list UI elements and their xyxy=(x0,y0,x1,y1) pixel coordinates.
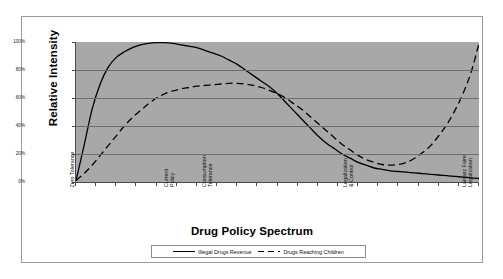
x-tick-mark xyxy=(478,183,479,186)
plot-inner xyxy=(76,42,479,182)
y-axis-title: Relative Intensity xyxy=(47,18,65,138)
x-tick-mark xyxy=(418,183,419,186)
y-tick-label: 80% xyxy=(0,68,25,73)
x-tick-mark xyxy=(95,183,96,186)
y-tick-label: 0% xyxy=(0,180,25,185)
x-tick-mark xyxy=(277,183,278,186)
chart-container: Relative Intensity 0%20%40%60%80%100% Ze… xyxy=(21,16,483,263)
y-tick-label: 100% xyxy=(0,40,25,45)
x-tick-mark xyxy=(317,183,318,186)
x-tick-mark xyxy=(256,183,257,186)
x-category-label-line: Zero Tolerance xyxy=(69,151,75,187)
x-axis-title: Drug Policy Spectrum xyxy=(22,225,482,237)
gridline xyxy=(76,154,479,155)
series-svg xyxy=(76,42,479,182)
plot-area xyxy=(75,42,479,183)
y-tick-label: 40% xyxy=(0,124,25,129)
x-tick-mark xyxy=(156,183,157,186)
legend-entry-1[interactable]: Illegal Drugs Revenue xyxy=(173,249,251,255)
series-line-2 xyxy=(76,43,479,180)
x-tick-mark xyxy=(377,183,378,186)
x-tick-mark xyxy=(458,183,459,186)
x-tick-mark xyxy=(75,183,76,186)
x-category-label-line: Laissez Faire xyxy=(461,155,467,187)
x-category-label-line: Policy xyxy=(169,169,175,187)
gridline xyxy=(76,126,479,127)
y-tick-mark xyxy=(72,70,75,71)
x-category-label-line: & Control xyxy=(349,158,355,187)
x-tick-mark xyxy=(357,183,358,186)
series-line-1 xyxy=(76,43,479,181)
y-tick-mark xyxy=(72,42,75,43)
gridline xyxy=(76,98,479,99)
y-tick-mark xyxy=(72,126,75,127)
x-tick-mark xyxy=(216,183,217,186)
x-category-label-line: Tolerance xyxy=(208,155,214,187)
x-category-label-line: Current xyxy=(163,169,169,187)
gridline xyxy=(76,70,479,71)
y-tick-label: 60% xyxy=(0,96,25,101)
x-tick-mark xyxy=(115,183,116,186)
x-tick-mark xyxy=(236,183,237,186)
x-category-label-line: Legalization xyxy=(467,155,473,187)
x-tick-mark xyxy=(196,183,197,186)
chart-legend: Illegal Drugs RevenueDrugs Reaching Chil… xyxy=(151,245,366,258)
x-tick-mark xyxy=(297,183,298,186)
x-tick-mark xyxy=(397,183,398,186)
x-tick-mark xyxy=(337,183,338,186)
legend-label: Illegal Drugs Revenue xyxy=(198,249,251,255)
legend-entry-2[interactable]: Drugs Reaching Children xyxy=(258,249,343,255)
legend-label: Drugs Reaching Children xyxy=(283,249,343,255)
x-tick-mark xyxy=(438,183,439,186)
legend-swatch-solid xyxy=(173,249,195,254)
y-tick-mark xyxy=(72,98,75,99)
x-tick-mark xyxy=(135,183,136,186)
y-tick-label: 20% xyxy=(0,152,25,157)
legend-swatch-dashed xyxy=(258,249,280,254)
